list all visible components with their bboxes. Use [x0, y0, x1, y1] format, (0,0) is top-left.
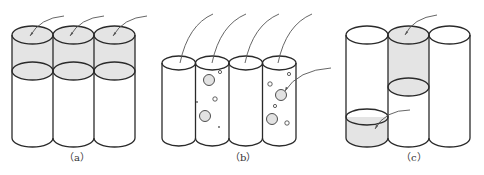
cylinder-bottom — [429, 138, 470, 147]
cylinder-top — [429, 26, 470, 44]
bubble — [213, 97, 217, 101]
shaded-bottom — [346, 138, 388, 147]
cylinder-bottom — [263, 138, 297, 146]
bubble — [218, 126, 220, 128]
panel-b: （b） — [162, 14, 331, 163]
bubble — [196, 101, 198, 103]
panel-caption: （a） — [64, 152, 90, 163]
cylinder-bottom — [53, 138, 94, 147]
leader-line-bubble — [285, 68, 331, 91]
bubble — [204, 75, 215, 86]
cylinder-bottom — [229, 138, 263, 146]
panel-caption: （b） — [230, 152, 256, 163]
bubble — [268, 82, 272, 86]
bubble — [218, 70, 221, 73]
cylinder-top — [162, 56, 196, 70]
bubble — [273, 104, 276, 107]
cylinder-bottom — [196, 138, 230, 146]
panel-c: （c） — [346, 15, 470, 163]
bubble — [267, 114, 278, 125]
bubble — [276, 90, 287, 101]
bubble — [287, 72, 290, 75]
cylinder-top — [346, 26, 388, 44]
panel-a: （a） — [12, 16, 147, 163]
bubble — [200, 111, 211, 122]
cylinder-bottom — [162, 138, 196, 146]
bubble — [285, 121, 289, 125]
cylinder-bottom — [94, 138, 135, 147]
cylinder-bottom — [388, 138, 429, 147]
panel-caption: （c） — [401, 152, 427, 163]
figure-canvas: （a） （b） — [0, 0, 484, 175]
cylinder-bottom — [12, 138, 53, 147]
